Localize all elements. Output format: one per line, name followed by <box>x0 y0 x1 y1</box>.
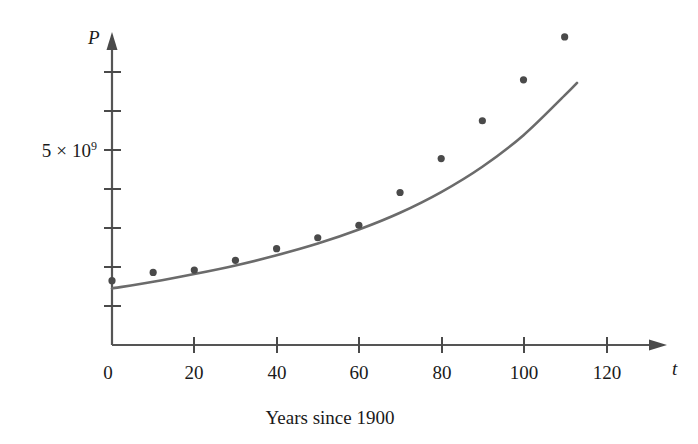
y-axis-label: P <box>87 27 100 48</box>
data-point <box>314 234 321 241</box>
x-tick-label-100: 100 <box>510 362 539 383</box>
chart-figure: P t 5×109 0 20 40 60 80 100 120 Years si… <box>0 0 698 444</box>
data-point <box>438 155 445 162</box>
chart-caption: Years since 1900 <box>266 407 395 428</box>
data-point <box>150 269 157 276</box>
x-tick-label-60: 60 <box>350 362 369 383</box>
data-point <box>273 245 280 252</box>
y-axis-arrowhead <box>107 32 118 50</box>
data-point <box>561 33 568 40</box>
data-point <box>232 257 239 264</box>
x-tick-label-120: 120 <box>593 362 622 383</box>
fitted-curve <box>112 83 577 289</box>
y-label-exponent: 9 <box>91 139 97 153</box>
data-point-group <box>108 33 568 284</box>
y-label-times-sign: × <box>56 140 67 161</box>
y-label-base: 10 <box>72 140 91 161</box>
x-axis-arrowhead <box>649 340 667 351</box>
data-point <box>108 277 115 284</box>
data-point <box>355 222 362 229</box>
y-label-mantissa: 5 <box>42 140 52 161</box>
x-tick-label-40: 40 <box>268 362 287 383</box>
data-point <box>396 189 403 196</box>
x-tick-label-80: 80 <box>433 362 452 383</box>
x-axis-label: t <box>672 358 678 379</box>
chart-plot-area: P t 5×109 0 20 40 60 80 100 120 Years si… <box>0 0 698 444</box>
data-point <box>479 117 486 124</box>
y-axis-tick-label-5e9: 5×109 <box>42 139 97 161</box>
data-point <box>520 76 527 83</box>
x-tick-label-0: 0 <box>103 362 113 383</box>
x-tick-label-20: 20 <box>185 362 204 383</box>
data-point <box>191 267 198 274</box>
